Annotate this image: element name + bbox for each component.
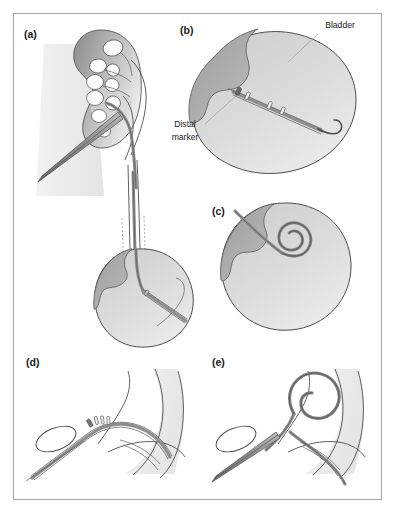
calyx: [87, 75, 104, 90]
calyx: [92, 110, 107, 123]
calyx: [87, 91, 104, 106]
distal-marker-label-line1: Distal: [174, 119, 196, 129]
panel-label-b: (b): [180, 24, 193, 36]
distal-marker-label-line2: marker: [172, 132, 199, 142]
bladder-label: Bladder: [325, 20, 355, 30]
panel-c-bladder-coil: [221, 203, 352, 330]
marker-band-d: [107, 416, 110, 424]
panel-label-c: (c): [212, 205, 225, 217]
panel-label-e: (e): [212, 356, 225, 368]
panel-label-a: (a): [24, 28, 37, 40]
bladder-inset-lower-a: [94, 249, 193, 347]
figure-container: (a) (b) (c) (d) (e) Bladder Distal marke…: [0, 0, 395, 513]
medical-illustration-svg: (a) (b) (c) (d) (e) Bladder Distal marke…: [0, 0, 395, 513]
panel-label-d: (d): [26, 356, 39, 368]
